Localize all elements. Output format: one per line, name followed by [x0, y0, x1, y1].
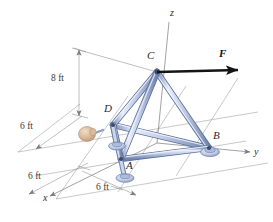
axis-label-x: x — [43, 193, 47, 203]
ground-grid — [18, 78, 268, 199]
joint-D — [111, 123, 115, 127]
hand-grip-icon — [79, 127, 104, 142]
axis-label-y: y — [254, 147, 258, 157]
member-CD — [112, 71, 157, 125]
node-label-C: C — [147, 50, 154, 61]
joint-A — [119, 157, 123, 161]
force-label-F: F — [219, 48, 226, 59]
axis-label-z: z — [170, 8, 174, 18]
dimension-label-offset-left: 6 ft — [20, 122, 33, 132]
dim-base-tick-mid — [78, 166, 90, 170]
node-label-D: D — [104, 103, 112, 114]
member-AB — [121, 146, 209, 159]
node-label-A: A — [126, 160, 133, 171]
figure-canvas — [0, 0, 273, 222]
dimension-label-base-left: 6 ft — [28, 172, 41, 182]
dimension-label-base-right: 6 ft — [96, 183, 109, 193]
dim-8ft-tick-top — [74, 48, 86, 52]
truss-figure: z y x C D A B F 8 ft 6 ft 6 ft 6 ft — [0, 0, 273, 222]
node-label-B: B — [213, 130, 220, 141]
force-arrow-F — [157, 70, 238, 72]
truss-members — [112, 71, 209, 159]
dimension-label-height: 8 ft — [51, 74, 64, 84]
joint-B — [207, 146, 211, 150]
